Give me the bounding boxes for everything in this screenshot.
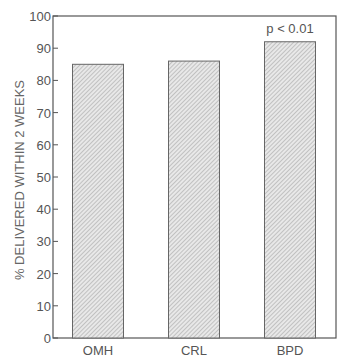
- bar-bpd: [265, 42, 316, 338]
- y-axis-ticks: 0102030405060708090100: [29, 9, 58, 346]
- x-label-bpd: BPD: [277, 343, 304, 358]
- y-tick-label: 80: [37, 73, 51, 88]
- y-tick-label: 60: [37, 138, 51, 153]
- y-tick-label: 70: [37, 106, 51, 121]
- bar-chart: 0102030405060708090100 OMHCRLBPD p < 0.0…: [0, 0, 345, 360]
- x-axis-labels: OMHCRLBPD: [83, 343, 304, 358]
- annotations: p < 0.01: [266, 21, 313, 36]
- x-label-omh: OMH: [83, 343, 113, 358]
- bar-crl: [169, 61, 220, 338]
- y-axis-title: % DELIVERED WITHIN 2 WEEKS: [12, 80, 27, 280]
- y-tick-label: 100: [29, 9, 51, 24]
- y-tick-label: 20: [37, 267, 51, 282]
- bars: [73, 42, 316, 338]
- y-tick-label: 0: [44, 331, 51, 346]
- x-label-crl: CRL: [181, 343, 207, 358]
- y-tick-label: 30: [37, 234, 51, 249]
- bar-omh: [73, 64, 124, 338]
- y-tick-label: 10: [37, 299, 51, 314]
- significance-annotation: p < 0.01: [266, 21, 313, 36]
- y-tick-label: 90: [37, 41, 51, 56]
- y-tick-label: 40: [37, 202, 51, 217]
- y-tick-label: 50: [37, 170, 51, 185]
